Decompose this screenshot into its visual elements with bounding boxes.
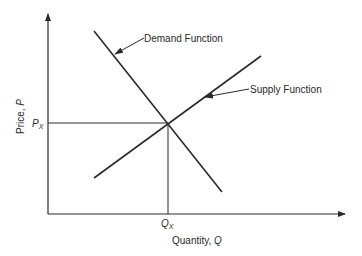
price-equilibrium-label: PX <box>32 118 44 130</box>
demand-curve <box>94 31 222 192</box>
y-axis-label: Price, P <box>15 99 26 134</box>
demand-pointer-arrow <box>115 38 144 54</box>
supply-label: Supply Function <box>250 84 322 95</box>
x-axis-label: Quantity, Q <box>172 235 222 246</box>
quantity-equilibrium-label: QX <box>161 218 174 230</box>
supply-demand-diagram: Demand Function Supply Function PX QX Qu… <box>0 0 362 256</box>
supply-curve <box>94 56 261 178</box>
demand-label: Demand Function <box>144 33 223 44</box>
